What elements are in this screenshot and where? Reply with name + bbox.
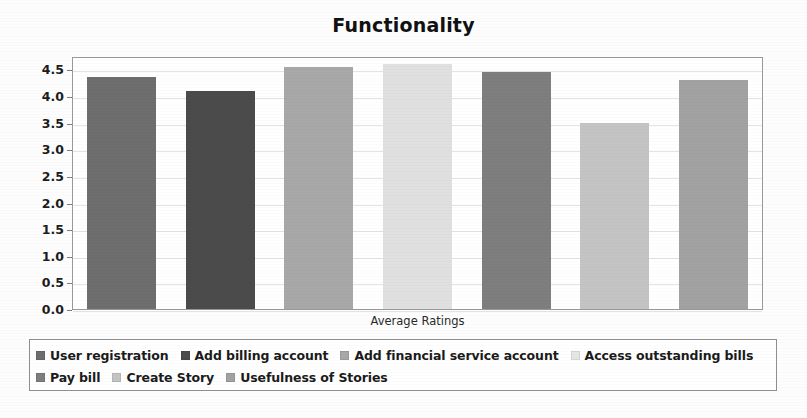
legend-swatch-icon <box>36 351 45 360</box>
y-tick-label: 2.5 <box>24 169 64 184</box>
legend-label: Add financial service account <box>354 348 558 363</box>
legend-swatch-icon <box>112 373 121 382</box>
legend-swatch-icon <box>340 351 349 360</box>
legend-item-add-financial-service-account[interactable]: Add financial service account <box>340 348 558 363</box>
bar-create-story <box>580 123 649 309</box>
legend-item-usefulness-of-stories[interactable]: Usefulness of Stories <box>226 370 388 385</box>
legend-item-pay-bill[interactable]: Pay bill <box>36 370 100 385</box>
legend-swatch-icon <box>181 351 190 360</box>
legend-label: Add billing account <box>195 348 329 363</box>
legend-swatch-icon <box>36 373 45 382</box>
x-axis-label: Average Ratings <box>72 314 763 328</box>
y-tick-label: 1.0 <box>24 249 64 264</box>
y-tick-mark <box>67 310 72 311</box>
bar-series <box>72 57 763 310</box>
y-tick-label: 1.5 <box>24 222 64 237</box>
legend-item-create-story[interactable]: Create Story <box>112 370 214 385</box>
legend-item-user-registration[interactable]: User registration <box>36 348 169 363</box>
bar-user-registration <box>87 77 156 309</box>
legend-swatch-icon <box>571 351 580 360</box>
y-tick-label: 3.5 <box>24 116 64 131</box>
y-tick-label: 0.0 <box>24 302 64 317</box>
y-tick-label: 2.0 <box>24 196 64 211</box>
chart-container: Functionality 0.00.51.01.52.02.53.03.54.… <box>0 0 807 418</box>
legend-row-1: User registrationAdd billing accountAdd … <box>36 344 770 366</box>
legend-label: Pay bill <box>50 370 100 385</box>
y-tick-label: 3.0 <box>24 142 64 157</box>
legend-label: Usefulness of Stories <box>240 370 388 385</box>
y-tick-label: 0.5 <box>24 275 64 290</box>
legend-item-add-billing-account[interactable]: Add billing account <box>181 348 329 363</box>
chart-title: Functionality <box>0 14 807 36</box>
legend-item-access-outstanding-bills[interactable]: Access outstanding bills <box>571 348 754 363</box>
bar-add-financial-service-account <box>284 67 353 309</box>
bar-add-billing-account <box>186 91 255 309</box>
y-tick-label: 4.5 <box>24 62 64 77</box>
legend-label: Access outstanding bills <box>585 348 754 363</box>
y-tick-label: 4.0 <box>24 89 64 104</box>
bar-access-outstanding-bills <box>383 64 452 309</box>
bar-pay-bill <box>482 72 551 309</box>
bar-usefulness-of-stories <box>679 80 748 309</box>
legend-label: User registration <box>50 348 169 363</box>
chart-legend: User registrationAdd billing accountAdd … <box>29 339 777 391</box>
legend-row-2: Pay billCreate StoryUsefulness of Storie… <box>36 366 770 388</box>
gridline-0.0 <box>73 311 762 312</box>
legend-label: Create Story <box>126 370 214 385</box>
legend-swatch-icon <box>226 373 235 382</box>
